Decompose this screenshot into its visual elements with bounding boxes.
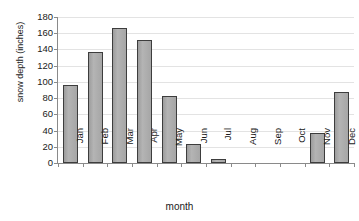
x-tick-label-jul: Jul [222, 128, 233, 168]
x-tick-mark [58, 163, 59, 167]
bar-chart: snow depth (inches) 02040608010012014016… [0, 0, 359, 221]
x-tick-label-nov: Nov [321, 128, 332, 168]
x-tick-label-sep: Sep [272, 128, 283, 168]
x-tick-label-dec: Dec [346, 128, 357, 168]
y-tick-mark [54, 33, 58, 34]
x-tick-label-jan: Jan [74, 128, 85, 168]
x-tick-label-jun: Jun [198, 128, 209, 168]
y-tick-label: 40 [27, 126, 53, 135]
y-tick-label: 160 [27, 28, 53, 37]
y-tick-mark [54, 98, 58, 99]
y-tick-mark [54, 17, 58, 18]
y-tick-mark [54, 82, 58, 83]
x-tick-label-feb: Feb [99, 128, 110, 168]
x-tick-label-oct: Oct [296, 128, 307, 168]
x-tick-label-mar: Mar [124, 128, 135, 168]
x-axis-title: month [0, 201, 359, 212]
y-tick-label: 80 [27, 93, 53, 102]
x-tick-label-may: May [173, 128, 184, 168]
y-tick-mark [54, 147, 58, 148]
y-tick-mark [54, 49, 58, 50]
gridline [58, 17, 354, 18]
y-axis-line [57, 17, 58, 164]
y-tick-label: 180 [27, 12, 53, 21]
y-tick-mark [54, 131, 58, 132]
y-tick-label: 120 [27, 61, 53, 70]
gridline [58, 49, 354, 50]
plot-area: JanFebMarAprMayJunJulAugSepOctNovDec [58, 17, 354, 163]
y-axis-title: snow depth (inches) [15, 0, 25, 127]
y-tick-label: 60 [27, 109, 53, 118]
y-axis-tick-labels: 020406080100120140160180 [26, 0, 53, 221]
y-tick-label: 20 [27, 142, 53, 151]
x-tick-label-apr: Apr [148, 128, 159, 168]
y-tick-mark [54, 114, 58, 115]
x-tick-label-aug: Aug [247, 128, 258, 168]
y-tick-label: 0 [27, 158, 53, 167]
y-tick-mark [54, 66, 58, 67]
y-tick-label: 100 [27, 77, 53, 86]
y-tick-label: 140 [27, 44, 53, 53]
gridline [58, 33, 354, 34]
